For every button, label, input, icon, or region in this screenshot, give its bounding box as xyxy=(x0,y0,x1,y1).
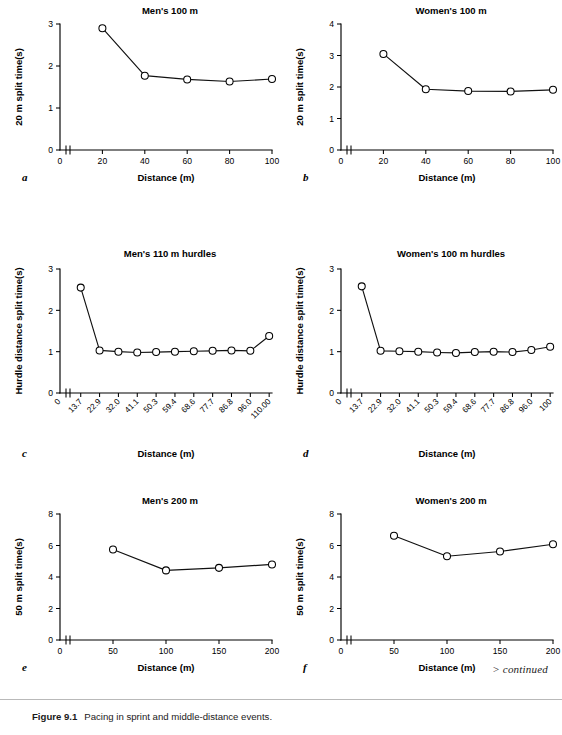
series-line xyxy=(113,549,272,570)
figure-caption-label: Figure 9.1 xyxy=(32,711,77,722)
x-tick-label: 60 xyxy=(463,156,473,166)
data-point-marker xyxy=(396,348,403,355)
y-tick-label: 3 xyxy=(329,264,334,274)
data-point-marker xyxy=(452,349,459,356)
x-axis-label: Distance (m) xyxy=(418,172,475,183)
y-tick-label: 4 xyxy=(329,19,334,29)
data-point-marker xyxy=(247,347,254,354)
data-point-marker xyxy=(377,347,384,354)
x-tick-label: 96.0 xyxy=(517,397,535,415)
x-tick-label: 41.1 xyxy=(123,397,141,415)
chart-svg-e: 02468050100150200Men's 200 mDistance (m)… xyxy=(0,490,281,720)
data-point-marker xyxy=(216,564,223,571)
panel-letter-a: a xyxy=(22,171,28,183)
y-tick-label: 3 xyxy=(329,51,334,61)
chart-svg-c: 0123013.722.932.041.150.359.468.677.786.… xyxy=(0,243,281,490)
data-point-marker xyxy=(358,283,365,290)
y-axis-label: 20 m split time(s) xyxy=(13,48,24,126)
y-tick-label: 3 xyxy=(48,264,53,274)
y-tick-label: 0 xyxy=(329,388,334,398)
data-point-marker xyxy=(269,76,276,83)
y-tick-label: 2 xyxy=(329,82,334,92)
x-tick-label: 50.3 xyxy=(142,397,160,415)
chart-svg-a: 0123020406080100Men's 100 mDistance (m)2… xyxy=(0,0,281,230)
y-tick-label: 6 xyxy=(329,541,334,551)
y-tick-label: 0 xyxy=(48,145,53,155)
y-axis-label: 50 m split time(s) xyxy=(13,538,24,616)
x-tick-label: 20 xyxy=(98,156,108,166)
data-point-marker xyxy=(434,349,441,356)
x-tick-label: 86.8 xyxy=(217,397,235,415)
chart-title: Women's 100 m hurdles xyxy=(397,248,505,259)
x-axis-label: Distance (m) xyxy=(137,448,194,459)
x-tick-label: 59.4 xyxy=(442,397,460,415)
x-tick-label: 80 xyxy=(225,156,235,166)
data-point-marker xyxy=(497,548,504,555)
x-tick-label: 40 xyxy=(140,156,150,166)
data-point-marker xyxy=(471,349,478,356)
data-point-marker xyxy=(509,349,516,356)
y-axis-label: Hurdle distance split time(s) xyxy=(294,267,305,394)
chart-title: Women's 100 m xyxy=(415,5,486,16)
x-tick-label: 68.6 xyxy=(180,397,198,415)
y-tick-label: 2 xyxy=(329,604,334,614)
x-tick-label: 100 xyxy=(440,646,455,656)
x-tick-label: 41.1 xyxy=(404,397,422,415)
x-tick-label: 22.9 xyxy=(366,397,384,415)
x-tick-label: 20 xyxy=(379,156,389,166)
chart-svg-f: 02468050100150200Women's 200 mDistance (… xyxy=(281,490,562,720)
data-point-marker xyxy=(209,347,216,354)
chart-panel-d: 0123013.722.932.041.150.359.468.677.786.… xyxy=(281,243,562,490)
x-tick-label: 50 xyxy=(389,646,399,656)
data-point-marker xyxy=(444,553,451,560)
x-tick-label: 32.0 xyxy=(104,397,122,415)
chart-title: Women's 200 m xyxy=(415,495,486,506)
x-tick-label: 77.7 xyxy=(198,397,216,415)
y-tick-label: 6 xyxy=(48,541,53,551)
panel-letter-f: f xyxy=(303,661,308,673)
chart-title: Men's 200 m xyxy=(142,495,198,506)
data-point-marker xyxy=(266,332,273,339)
y-tick-label: 2 xyxy=(48,604,53,614)
chart-panel-a: 0123020406080100Men's 100 mDistance (m)2… xyxy=(0,0,281,230)
y-tick-label: 8 xyxy=(329,509,334,519)
x-tick-label: 150 xyxy=(212,646,227,656)
x-tick-label: 0 xyxy=(58,156,63,166)
y-tick-label: 2 xyxy=(48,61,53,71)
panel-letter-b: b xyxy=(303,171,309,183)
x-tick-label: 100 xyxy=(265,156,280,166)
x-tick-label: 13.7 xyxy=(348,397,366,415)
x-tick-label: 50.3 xyxy=(423,397,441,415)
y-tick-label: 1 xyxy=(329,114,334,124)
y-tick-label: 1 xyxy=(48,103,53,113)
data-point-marker xyxy=(77,284,84,291)
x-tick-label: 100 xyxy=(538,397,554,413)
x-tick-label: 0 xyxy=(334,397,344,407)
series-line xyxy=(81,288,269,353)
data-point-marker xyxy=(528,347,535,354)
data-point-marker xyxy=(415,348,422,355)
data-point-marker xyxy=(465,88,472,95)
y-tick-label: 0 xyxy=(329,145,334,155)
x-tick-label: 200 xyxy=(265,646,280,656)
data-point-marker xyxy=(163,567,170,574)
data-point-marker xyxy=(550,86,557,93)
y-tick-label: 4 xyxy=(329,572,334,582)
x-tick-label: 0 xyxy=(339,156,344,166)
x-tick-label: 100 xyxy=(159,646,174,656)
x-tick-label: 100 xyxy=(546,156,561,166)
x-axis-label: Distance (m) xyxy=(137,662,194,673)
x-tick-label: 60 xyxy=(182,156,192,166)
y-tick-label: 0 xyxy=(48,388,53,398)
y-tick-label: 1 xyxy=(48,347,53,357)
y-tick-label: 2 xyxy=(48,306,53,316)
data-point-marker xyxy=(422,86,429,93)
x-tick-label: 86.8 xyxy=(498,397,516,415)
figure-9-1: 0123020406080100Men's 100 mDistance (m)2… xyxy=(0,0,562,735)
panel-letter-d: d xyxy=(303,447,309,459)
series-line xyxy=(383,54,553,91)
x-tick-label: 150 xyxy=(493,646,508,656)
data-point-marker xyxy=(141,72,148,79)
data-point-marker xyxy=(490,348,497,355)
x-tick-label: 22.9 xyxy=(85,397,103,415)
